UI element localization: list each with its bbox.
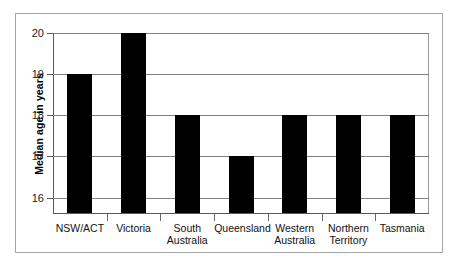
category-label: Northern Territory [322, 223, 376, 246]
category-separator [322, 214, 323, 221]
y-tick-label-20: 20 [32, 28, 44, 39]
category-label: Victoria [107, 223, 161, 235]
bar [390, 115, 415, 214]
y-axis-title: Median age in years [32, 33, 46, 214]
y-tick-label-17: 17 [32, 151, 44, 162]
y-tick-label-16: 16 [32, 192, 44, 203]
bar [282, 115, 307, 214]
category-separator [268, 214, 269, 221]
category-separator [107, 214, 108, 221]
category-label: NSW/ACT [53, 223, 107, 235]
category-label: Western Australia [268, 223, 322, 246]
bar [121, 33, 146, 214]
plot-area: 1617181920 [53, 33, 429, 214]
category-label: South Australia [160, 223, 214, 246]
bar [229, 156, 254, 214]
bar [336, 115, 361, 214]
y-tick-label-19: 19 [32, 69, 44, 80]
category-separator [160, 214, 161, 221]
category-label: Queensland [214, 223, 268, 235]
chart-frame: Median age in years 1617181920 NSW/ACTVi… [15, 13, 443, 253]
category-axis: NSW/ACTVictoriaSouth AustraliaQueensland… [53, 214, 429, 252]
y-tick-label-18: 18 [32, 110, 44, 121]
category-label: Tasmania [375, 223, 429, 235]
bar [175, 115, 200, 214]
category-separator [375, 214, 376, 221]
bar [67, 74, 92, 214]
category-separator [214, 214, 215, 221]
bar-series [53, 33, 429, 214]
